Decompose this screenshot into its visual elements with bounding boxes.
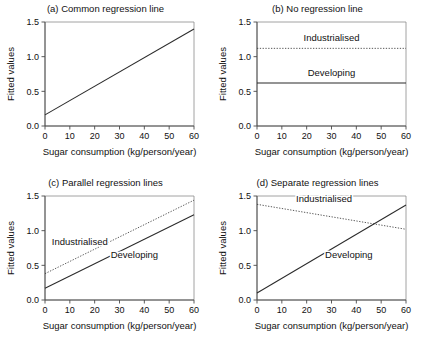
x-tick-label: 60 [189, 131, 199, 141]
chart-panel-d: (d) Separate regression lines 0102030405… [212, 174, 423, 347]
y-tick-label: 1.5 [26, 17, 39, 27]
panel-a-plot: 01020304050600.00.51.01.5Sugar consumpti… [0, 0, 211, 173]
x-tick-label: 40 [139, 131, 149, 141]
y-tick-label: 0.5 [26, 87, 39, 97]
x-tick-label: 40 [351, 305, 361, 315]
y-tick-label: 1.5 [26, 191, 39, 201]
x-tick-label: 0 [42, 305, 47, 315]
series-label-industrialised: Industrialised [52, 236, 108, 247]
plot-frame [257, 196, 406, 300]
x-axis-title: Sugar consumption (kg/person/year) [255, 146, 409, 157]
x-tick-label: 10 [65, 305, 75, 315]
x-axis-title: Sugar consumption (kg/person/year) [43, 320, 197, 331]
chart-panel-b: (b) No regression line 01020304050600.00… [212, 0, 423, 173]
series-line-common [45, 29, 194, 115]
x-tick-label: 40 [351, 131, 361, 141]
y-tick-label: 0.5 [238, 87, 251, 97]
y-tick-label: 0.0 [26, 295, 39, 305]
x-tick-label: 60 [401, 305, 411, 315]
x-tick-label: 30 [114, 305, 124, 315]
y-tick-label: 1.0 [26, 52, 39, 62]
panel-b-plot: 01020304050600.00.51.01.5Sugar consumpti… [212, 0, 423, 173]
y-tick-label: 0.5 [26, 261, 39, 271]
x-tick-label: 20 [302, 131, 312, 141]
x-tick-label: 30 [114, 131, 124, 141]
x-tick-label: 50 [164, 131, 174, 141]
x-axis-title: Sugar consumption (kg/person/year) [43, 146, 197, 157]
series-line-industrialised [257, 204, 406, 229]
x-tick-label: 20 [302, 305, 312, 315]
y-axis-title: Fitted values [5, 47, 16, 101]
x-tick-label: 40 [139, 305, 149, 315]
chart-panel-a: (a) Common regression line 0102030405060… [0, 0, 211, 173]
x-tick-label: 30 [326, 305, 336, 315]
series-label-developing: Developing [111, 249, 159, 260]
x-tick-label: 60 [401, 131, 411, 141]
x-tick-label: 20 [90, 131, 100, 141]
plot-frame [45, 22, 194, 126]
x-tick-label: 10 [65, 131, 75, 141]
axis-lines [257, 196, 406, 300]
y-tick-label: 0.0 [238, 295, 251, 305]
x-tick-label: 0 [42, 131, 47, 141]
panel-c-plot: 01020304050600.00.51.01.5Sugar consumpti… [0, 174, 211, 347]
x-tick-label: 30 [326, 131, 336, 141]
y-tick-label: 0.0 [26, 121, 39, 131]
series-label-developing: Developing [308, 67, 356, 78]
x-tick-label: 0 [254, 131, 259, 141]
chart-panel-c: (c) Parallel regression lines 0102030405… [0, 174, 211, 347]
y-axis-title: Fitted values [217, 47, 228, 101]
y-tick-label: 0.0 [238, 121, 251, 131]
x-tick-label: 50 [376, 305, 386, 315]
y-tick-label: 1.0 [26, 226, 39, 236]
y-tick-label: 1.5 [238, 191, 251, 201]
y-axis-title: Fitted values [217, 221, 228, 275]
y-tick-label: 1.5 [238, 17, 251, 27]
series-label-industrialised: Industrialised [296, 193, 352, 204]
series-label-industrialised: Industrialised [304, 32, 360, 43]
y-tick-label: 0.5 [238, 261, 251, 271]
figure-panel-grid: (a) Common regression line 0102030405060… [0, 0, 423, 347]
x-axis-title: Sugar consumption (kg/person/year) [255, 320, 409, 331]
panel-d-plot: 01020304050600.00.51.01.5Sugar consumpti… [212, 174, 423, 347]
axis-lines [45, 22, 194, 126]
y-tick-label: 1.0 [238, 226, 251, 236]
x-tick-label: 10 [277, 305, 287, 315]
x-tick-label: 60 [189, 305, 199, 315]
x-tick-label: 50 [164, 305, 174, 315]
x-tick-label: 50 [376, 131, 386, 141]
series-label-developing: Developing [325, 249, 373, 260]
x-tick-label: 10 [277, 131, 287, 141]
x-tick-label: 20 [90, 305, 100, 315]
y-tick-label: 1.0 [238, 52, 251, 62]
x-tick-label: 0 [254, 305, 259, 315]
y-axis-title: Fitted values [5, 221, 16, 275]
